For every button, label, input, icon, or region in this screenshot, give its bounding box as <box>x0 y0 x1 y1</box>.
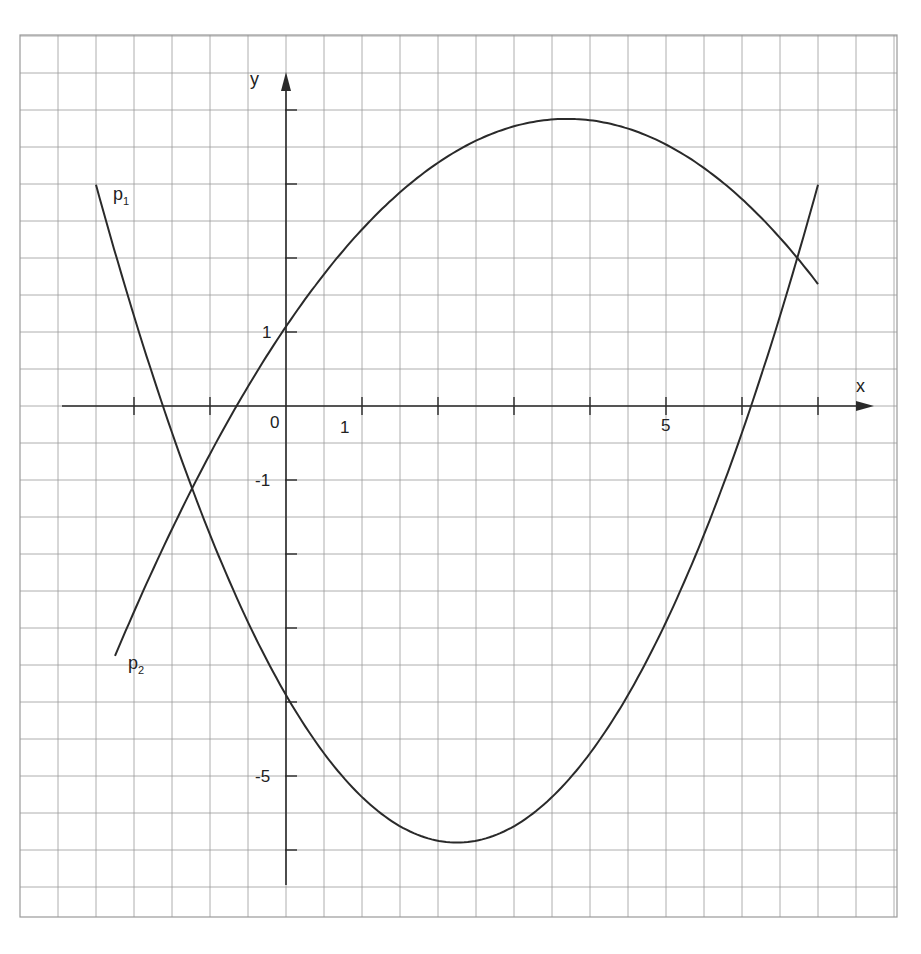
y-tick-label-minus-5: -5 <box>255 767 270 786</box>
y-axis-arrow-icon <box>281 72 291 91</box>
x-tick-label-5: 5 <box>661 416 670 435</box>
x-axis-arrow-icon <box>856 401 874 411</box>
curve-p1 <box>96 185 818 843</box>
p1-label: p1 <box>113 184 129 207</box>
x-tick-label-1: 1 <box>340 418 349 437</box>
axes <box>62 72 874 885</box>
y-tick-label-1: 1 <box>262 323 271 342</box>
y-axis-label: y <box>250 69 259 89</box>
grid-frame <box>20 35 897 917</box>
x-axis-label: x <box>856 376 865 396</box>
curve-p2 <box>115 119 818 656</box>
origin-label: 0 <box>270 413 279 432</box>
curves <box>96 119 818 843</box>
grid <box>20 35 897 917</box>
y-tick-label-minus-1: -1 <box>255 471 270 490</box>
function-graph: y x 0 1 5 1 -1 -5 p1 p2 <box>0 0 921 954</box>
p2-label: p2 <box>128 653 144 676</box>
